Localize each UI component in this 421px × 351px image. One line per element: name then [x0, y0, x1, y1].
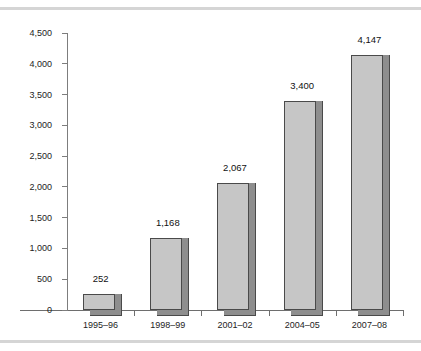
bar-value-label: 1,168: [138, 217, 198, 228]
y-axis-tick: [62, 125, 68, 126]
bar[interactable]: [83, 287, 122, 310]
x-axis-line: [20, 310, 403, 311]
x-axis-tick: [336, 310, 337, 316]
bar-front-face: [351, 55, 383, 310]
y-axis-tick: [62, 186, 68, 187]
x-axis-category-label: 2007–08: [329, 320, 409, 331]
y-axis-tick-label: 3,000: [6, 120, 52, 130]
bar[interactable]: [351, 48, 390, 310]
bar-value-label: 4,147: [339, 34, 399, 45]
y-axis-tick-label: 2,000: [6, 182, 52, 192]
bar[interactable]: [150, 231, 189, 310]
bar-base-shadow: [358, 309, 390, 316]
bar-value-label: 3,400: [272, 80, 332, 91]
y-axis-tick-label: 3,500: [6, 90, 52, 100]
y-axis-tick-label: 4,500: [6, 28, 52, 38]
chart-figure: 05001,0001,5002,0002,5003,0003,5004,0004…: [0, 0, 421, 351]
bar-base-shadow: [90, 309, 122, 316]
y-axis-tick: [62, 156, 68, 157]
bar-side-shadow: [316, 101, 323, 310]
bar-value-label: 2,067: [205, 162, 265, 173]
y-axis-tick: [62, 63, 68, 64]
y-axis-tick-label: 0: [6, 305, 52, 315]
y-axis-tick-label: 2,500: [6, 151, 52, 161]
bar-side-shadow: [115, 294, 122, 310]
x-axis-tick: [201, 310, 202, 316]
x-axis-tick: [134, 310, 135, 316]
bar[interactable]: [217, 176, 256, 310]
y-axis-tick-label: 1,000: [6, 243, 52, 253]
y-axis-tick-label: 500: [6, 274, 52, 284]
bar-base-shadow: [224, 309, 256, 316]
y-axis-tick: [62, 310, 68, 311]
y-axis-tick-label: 1,500: [6, 213, 52, 223]
bar-front-face: [217, 183, 249, 310]
bar-front-face: [83, 294, 115, 310]
y-axis-tick: [62, 94, 68, 95]
y-axis-line: [67, 33, 68, 310]
bar-value-label: 252: [71, 273, 131, 284]
bar-front-face: [284, 101, 316, 310]
bar-base-shadow: [291, 309, 323, 316]
bar-side-shadow: [182, 238, 189, 310]
y-axis-tick: [62, 217, 68, 218]
x-axis-tick: [269, 310, 270, 316]
bar-side-shadow: [383, 55, 390, 310]
y-axis-tick: [62, 279, 68, 280]
y-axis-tick: [62, 33, 68, 34]
x-axis-tick: [403, 310, 404, 316]
y-axis-tick: [62, 248, 68, 249]
bar-front-face: [150, 238, 182, 310]
y-axis-tick-label: 4,000: [6, 59, 52, 69]
bar-chart-plot-area: 05001,0001,5002,0002,5003,0003,5004,0004…: [0, 0, 421, 351]
bar[interactable]: [284, 94, 323, 310]
bar-side-shadow: [249, 183, 256, 310]
bar-base-shadow: [157, 309, 189, 316]
